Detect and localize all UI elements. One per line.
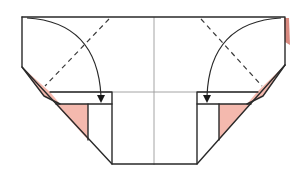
left-arrowhead-icon — [97, 95, 105, 103]
left-valley-fold-dashed — [45, 19, 109, 86]
origami-diagram — [0, 0, 302, 183]
right-arrowhead-icon — [203, 95, 211, 103]
top-edge — [22, 17, 285, 65]
paper-outline — [22, 17, 285, 164]
right-valley-fold-dashed — [201, 19, 262, 86]
